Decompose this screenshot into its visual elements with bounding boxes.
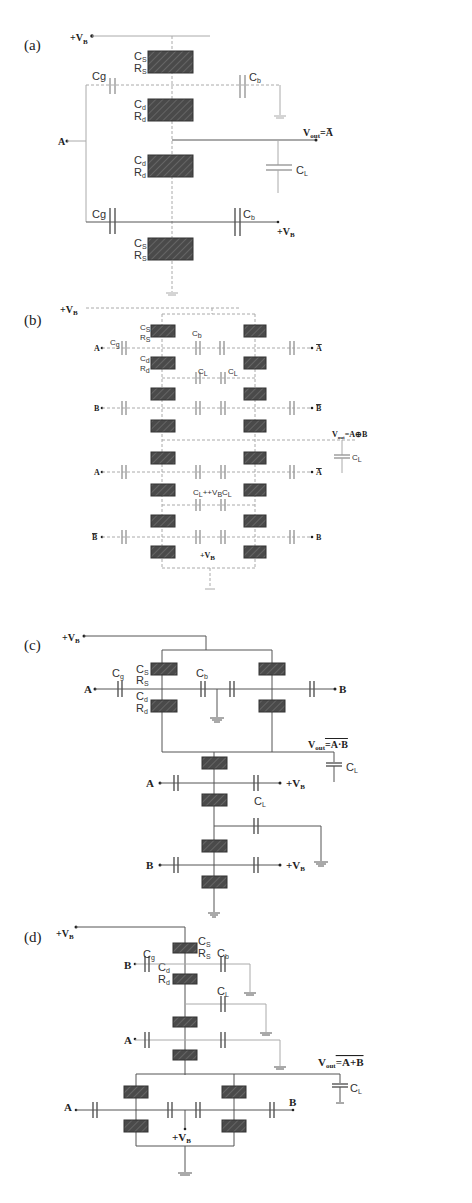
supply-label: +VB — [70, 32, 88, 46]
svg-text:CS: CS — [140, 323, 151, 333]
svg-text:CL: CL — [228, 367, 238, 377]
panel-b-label: (b) — [24, 312, 42, 329]
drain-block-2 — [148, 155, 193, 177]
svg-text:Rd: Rd — [158, 973, 170, 986]
svg-text:Vout=A⊕B: Vout=A⊕B — [332, 430, 368, 440]
svg-text:+VB: +VB — [56, 928, 74, 941]
svg-text:+VB: +VB — [200, 551, 215, 562]
svg-text:Cg: Cg — [110, 338, 120, 349]
svg-text:Cg: Cg — [92, 208, 106, 220]
svg-text:+VB: +VB — [172, 1131, 191, 1145]
svg-text:A̅: A̅ — [316, 344, 322, 353]
drain-block-1 — [148, 99, 193, 121]
svg-text:B̅: B̅ — [315, 404, 322, 413]
svg-text:A: A — [94, 344, 100, 353]
svg-text:+VB: +VB — [286, 777, 305, 791]
panel-c: (c) +VB CS RS Cd Rd A Cg Cb B Vout=A·B — [24, 632, 358, 917]
panel-a: (a) +VB CS RS Cd Rd Cd Rd CS RS A Cg Cb — [24, 32, 334, 295]
svg-text:B: B — [146, 859, 154, 871]
input-a-label: A — [58, 136, 66, 147]
source-block-top — [148, 51, 193, 73]
panel-d-label: (d) — [24, 929, 42, 946]
svg-text:Cg: Cg — [92, 70, 106, 82]
svg-text:CL: CL — [352, 453, 362, 463]
svg-text:Cb: Cb — [217, 947, 229, 960]
svg-text:RS: RS — [134, 249, 147, 262]
svg-text:A: A — [146, 777, 154, 789]
svg-text:Vout=A·B: Vout=A·B — [308, 739, 348, 752]
panel-b: (b) +VB CS — [24, 304, 368, 589]
output-label: Vout=A̅ — [303, 127, 334, 140]
svg-text:RS: RS — [134, 62, 147, 75]
source-block-bottom — [148, 238, 193, 260]
svg-text:CL: CL — [296, 164, 308, 177]
svg-text:Cd: Cd — [140, 354, 150, 364]
svg-text:CL: CL — [198, 367, 208, 377]
svg-text:+VB: +VB — [60, 304, 78, 317]
svg-text:A: A — [64, 1101, 72, 1113]
svg-text:A̅: A̅ — [316, 468, 322, 477]
svg-text:RS: RS — [198, 947, 211, 960]
svg-text:+VB: +VB — [286, 859, 305, 873]
svg-text:CL: CL — [350, 1082, 362, 1095]
svg-text:Rd: Rd — [134, 110, 146, 123]
svg-text:Rd: Rd — [134, 166, 146, 179]
svg-text:CL: CL — [346, 761, 358, 774]
svg-text:Cb: Cb — [196, 667, 208, 680]
svg-text:Cg: Cg — [112, 667, 124, 681]
svg-text:RS: RS — [140, 333, 151, 343]
svg-text:+VB: +VB — [277, 226, 295, 239]
svg-text:Cb: Cb — [243, 208, 255, 221]
svg-text:CL: CL — [217, 985, 229, 998]
svg-text:B: B — [339, 683, 347, 695]
svg-text:Cg: Cg — [143, 948, 155, 962]
svg-text:Cb: Cb — [192, 329, 202, 339]
svg-text:B: B — [94, 404, 100, 413]
svg-text:A: A — [84, 683, 92, 695]
svg-text:B: B — [316, 533, 322, 542]
svg-text:+VB: +VB — [62, 632, 80, 645]
svg-text:CL: CL — [254, 795, 266, 808]
panel-a-label: (a) — [24, 37, 41, 54]
svg-text:Cb: Cb — [249, 71, 261, 84]
left-blocks — [151, 325, 175, 558]
svg-text:Rd: Rd — [136, 702, 148, 715]
svg-text:A: A — [94, 468, 100, 477]
svg-text:B: B — [124, 959, 132, 971]
svg-text:B̅: B̅ — [91, 533, 98, 542]
svg-text:Rd: Rd — [140, 364, 150, 374]
circuit-figure: (a) +VB CS RS Cd Rd Cd Rd CS RS A Cg Cb — [0, 0, 472, 1203]
svg-text:B: B — [289, 1096, 297, 1108]
svg-text:A: A — [124, 1034, 132, 1046]
svg-text:CL++VBCL: CL++VBCL — [193, 488, 232, 498]
svg-text:Vout=A+B: Vout=A+B — [318, 1056, 364, 1070]
panel-d: (d) +VB CS RS Cd Rd B Cg Cb CL A — [24, 926, 364, 1176]
panel-c-label: (c) — [24, 637, 41, 654]
